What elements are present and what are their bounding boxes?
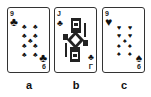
jack-court-figure-icon [62,17,89,63]
card-c: 9 ♥ ♥ ♥ ♥ ♥ ♠ ♠ ♠ ♠ ♠ ♠ 6 [102,7,145,73]
card-b: J ♣ ♣ Γ [54,7,97,73]
card-rank-bottom: 6 [42,63,46,70]
club-icon: ♣ [22,51,27,58]
spade-icon: ♠ [128,42,132,49]
heart-icon: ♥ [117,32,121,39]
card-rank: J [57,10,61,17]
spade-icon: ♠ [128,50,132,57]
club-icon: ♣ [33,42,38,49]
club-icon: ♣ [28,37,33,44]
card-caption-a: a [19,79,39,91]
spade-icon: ♠ [123,37,127,44]
club-icon: ♣ [33,51,38,58]
card-caption-c: c [114,79,134,91]
card-caption-b: b [66,79,86,91]
club-icon: ♣ [22,42,27,49]
card-rank-bottom: 6 [137,63,141,70]
club-icon: ♣ [88,51,94,63]
card-a: 9 ♣ ♣ ♣ ♣ ♣ ♣ ♣ ♣ ♣ ♣ ♣ 6 [7,7,50,73]
club-icon: ♣ [33,32,38,39]
club-icon: ♣ [10,16,18,28]
heart-icon: ♥ [117,24,121,31]
card-rank-bottom: Γ [89,63,93,70]
heart-icon: ♥ [128,24,132,31]
club-icon: ♣ [22,23,27,30]
spade-icon: ♠ [117,50,121,57]
heart-icon: ♥ [128,32,132,39]
club-icon: ♣ [33,23,38,30]
club-icon: ♣ [22,32,27,39]
heart-icon: ♥ [105,16,112,28]
spade-icon: ♠ [117,42,121,49]
